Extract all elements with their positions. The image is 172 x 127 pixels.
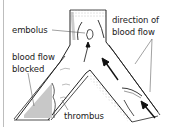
- label-blocked-line2: blocked: [12, 64, 44, 74]
- blocked-region: [24, 83, 52, 118]
- label-thrombus: thrombus: [64, 111, 104, 121]
- label-blocked-line1: blood flow: [12, 52, 55, 62]
- label-embolus: embolus: [12, 25, 48, 35]
- label-direction-line1: direction of: [112, 15, 159, 25]
- thrombus-mass: [52, 83, 55, 118]
- label-direction-line2: blood flow: [112, 27, 155, 37]
- embolus-clot: [87, 30, 94, 40]
- vessel-trunk: [70, 10, 106, 45]
